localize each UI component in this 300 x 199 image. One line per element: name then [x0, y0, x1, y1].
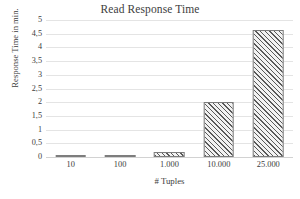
y-tick-label: 0 — [22, 153, 42, 161]
bar — [253, 30, 284, 157]
y-tick-label: 0,5 — [22, 139, 42, 147]
gridline — [46, 157, 293, 158]
y-tick-label: 3,5 — [22, 57, 42, 65]
y-tick-label: 4 — [22, 43, 42, 51]
bar-slot — [145, 20, 194, 157]
chart-title: Read Response Time — [0, 3, 300, 15]
plot-area — [46, 20, 293, 157]
bar — [204, 102, 235, 157]
x-tick-label: 100 — [95, 160, 144, 170]
bar-slot — [244, 20, 293, 157]
bar — [55, 155, 86, 157]
x-tick-label: 10.000 — [194, 160, 243, 170]
bar-slot — [95, 20, 144, 157]
y-axis-tick-labels: 00,511,522,533,544,55 — [22, 20, 42, 157]
bar — [105, 155, 136, 157]
y-tick-label: 1,5 — [22, 112, 42, 120]
x-tick-label: 10 — [46, 160, 95, 170]
y-tick-label: 2,5 — [22, 85, 42, 93]
y-tick-label: 2 — [22, 98, 42, 106]
y-tick-label: 4,5 — [22, 30, 42, 38]
y-tick-label: 5 — [22, 16, 42, 24]
y-tick-label: 1 — [22, 126, 42, 134]
x-tick-label: 1.000 — [145, 160, 194, 170]
x-tick-label: 25.000 — [244, 160, 293, 170]
bar-slot — [46, 20, 95, 157]
y-tick-label: 3 — [22, 71, 42, 79]
x-axis-tick-labels: 101001.00010.00025.000 — [46, 160, 293, 174]
bar-slot — [194, 20, 243, 157]
bar-series — [46, 20, 293, 157]
x-axis-title: # Tuples — [46, 176, 293, 186]
chart-container: Read Response Time Response Time in min.… — [0, 0, 300, 199]
bar — [154, 152, 185, 157]
y-axis-title: Response Time in min. — [10, 0, 20, 108]
